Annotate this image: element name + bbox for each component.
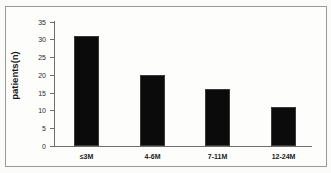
y-tick-mark-30 <box>50 39 54 40</box>
y-tick-label-5: 5 <box>32 125 46 132</box>
x-category-label-3: 12-24M <box>263 153 304 161</box>
y-tick-mark-0 <box>50 146 54 147</box>
figure-container: patients(n) 0 5 10 15 20 25 30 <box>0 0 331 173</box>
y-tick-label-wrap-30: 30 <box>30 36 46 43</box>
bar-chart: patients(n) 0 5 10 15 20 25 30 <box>0 0 331 173</box>
y-tick-mark-5 <box>50 128 54 129</box>
y-tick-label-wrap-15: 15 <box>30 90 46 97</box>
y-tick-label-wrap-10: 10 <box>30 107 46 114</box>
y-tick-label-wrap-5: 5 <box>30 125 46 132</box>
x-category-label-2: 7-11M <box>197 153 238 161</box>
bar-3 <box>271 107 296 146</box>
bar-1 <box>140 75 165 146</box>
y-tick-label-20: 20 <box>32 72 46 79</box>
bar-2 <box>205 89 230 146</box>
y-tick-label-0: 0 <box>32 143 46 150</box>
y-tick-label-30: 30 <box>32 36 46 43</box>
y-tick-mark-15 <box>50 93 54 94</box>
y-tick-label-wrap-20: 20 <box>30 72 46 79</box>
y-tick-label-10: 10 <box>32 107 46 114</box>
y-tick-mark-10 <box>50 110 54 111</box>
y-axis-title: patients(n) <box>9 38 20 114</box>
y-tick-label-wrap-35: 35 <box>30 19 46 26</box>
y-tick-label-35: 35 <box>32 19 46 26</box>
y-tick-label-25: 25 <box>32 54 46 61</box>
y-tick-label-wrap-0: 0 <box>30 143 46 150</box>
y-tick-mark-25 <box>50 57 54 58</box>
y-tick-label-15: 15 <box>32 90 46 97</box>
x-axis-line <box>54 146 312 147</box>
y-tick-label-wrap-25: 25 <box>30 54 46 61</box>
x-category-label-0: ≤3M <box>66 153 107 161</box>
x-category-label-1: 4-6M <box>132 153 173 161</box>
y-axis-line <box>54 21 55 147</box>
y-tick-mark-20 <box>50 75 54 76</box>
y-tick-mark-35 <box>50 22 54 23</box>
bar-0 <box>74 36 99 146</box>
